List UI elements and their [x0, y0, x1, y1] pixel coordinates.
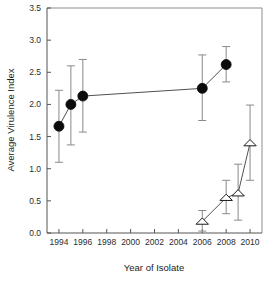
- x-tick-label: 2008: [217, 237, 236, 247]
- data-point-filled-circle: [197, 83, 207, 93]
- data-point-open-triangle: [244, 140, 256, 146]
- series-open-triangle-series: [196, 105, 256, 231]
- y-axis-title: Average Virulence Index: [5, 68, 16, 171]
- y-tick-label: 0.5: [29, 196, 41, 206]
- x-axis-title: Year of Isolate: [124, 262, 184, 273]
- y-tick-label: 1.5: [29, 132, 41, 142]
- y-tick-label: 2.0: [29, 99, 41, 109]
- chart-page: 0.00.51.01.52.02.53.03.5 199419961998200…: [0, 0, 275, 285]
- y-axis-ticks: [47, 8, 51, 233]
- x-tick-label: 2006: [193, 237, 212, 247]
- y-tick-label: 3.5: [29, 3, 41, 13]
- y-tick-label: 2.5: [29, 67, 41, 77]
- data-point-filled-circle: [78, 91, 88, 101]
- series-filled-circle-series: [54, 47, 231, 163]
- data-series-layer: [54, 47, 256, 232]
- x-tick-label: 1994: [49, 237, 68, 247]
- x-tick-label: 2004: [169, 237, 188, 247]
- virulence-index-scatter-chart: 0.00.51.01.52.02.53.03.5 199419961998200…: [0, 0, 275, 285]
- data-point-filled-circle: [54, 121, 64, 131]
- data-point-filled-circle: [66, 99, 76, 109]
- data-point-open-triangle: [220, 194, 232, 200]
- x-tick-label: 2002: [145, 237, 164, 247]
- x-tick-label: 2000: [121, 237, 140, 247]
- x-tick-label: 1996: [73, 237, 92, 247]
- x-axis-tick-labels: 199419961998200020022004200620082010: [49, 237, 259, 247]
- data-point-open-triangle: [196, 218, 208, 224]
- x-tick-label: 1998: [97, 237, 116, 247]
- y-tick-label: 0.0: [29, 228, 41, 238]
- y-tick-label: 1.0: [29, 164, 41, 174]
- data-point-open-triangle: [232, 190, 244, 196]
- y-axis-tick-labels: 0.00.51.01.52.02.53.03.5: [29, 3, 41, 238]
- data-point-filled-circle: [221, 60, 231, 70]
- x-axis-ticks: [59, 229, 250, 233]
- x-tick-label: 2010: [241, 237, 260, 247]
- y-tick-label: 3.0: [29, 35, 41, 45]
